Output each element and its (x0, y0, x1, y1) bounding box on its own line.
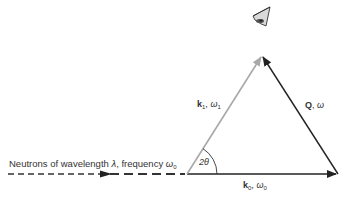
q-omega: ω (317, 100, 324, 110)
angle-label: 2θ (199, 158, 209, 167)
scattering-diagram (0, 0, 348, 202)
incoming-beam-label: Neutrons of wavelength λ, frequency ω0 (9, 159, 177, 170)
q-vector (263, 57, 338, 174)
detector-icon (253, 7, 270, 26)
k1-omega-subscript: 1 (217, 104, 220, 110)
k1-label: k1, ω1 (197, 100, 221, 110)
omega0-subscript: 0 (173, 164, 176, 170)
k0-label: k0, ω0 (243, 181, 267, 191)
beam-label-prefix: Neutrons of wavelength (9, 158, 111, 169)
beam-label-mid: , frequency (116, 158, 166, 169)
q-symbol: Q (305, 100, 312, 110)
k0-omega-subscript: 0 (263, 185, 266, 191)
q-label: Q, ω (305, 101, 324, 110)
incoming-beam (8, 171, 185, 178)
